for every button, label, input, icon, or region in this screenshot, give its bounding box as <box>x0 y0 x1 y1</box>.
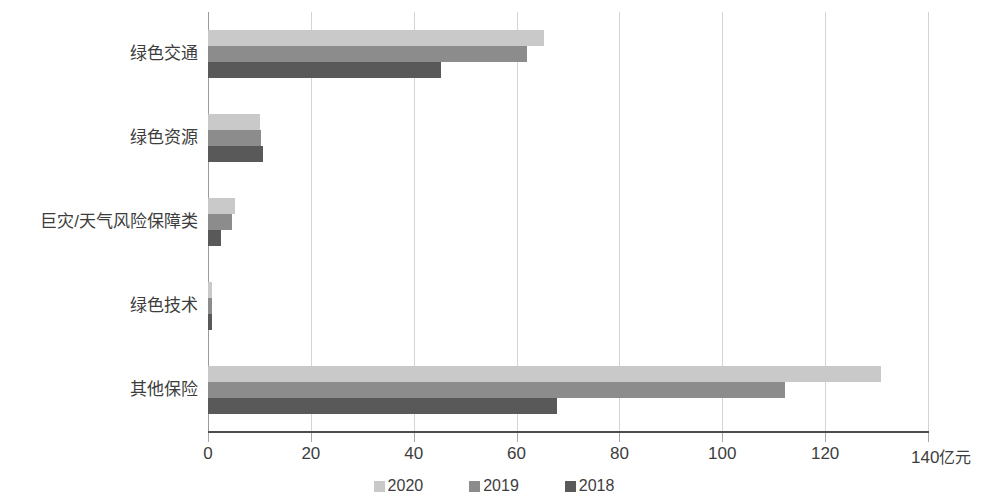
bar-2019 <box>208 382 785 398</box>
bar-2020 <box>208 282 212 298</box>
x-axis-tickmark <box>208 433 209 442</box>
x-tick-label: 20 <box>301 444 320 464</box>
x-axis-tickmark <box>311 433 312 442</box>
bar-2018 <box>208 62 441 78</box>
x-axis-tickmark <box>414 433 415 442</box>
bar-2019 <box>208 298 212 314</box>
x-axis-tickmark <box>619 433 620 442</box>
category-axis-labels: 绿色交通绿色资源巨灾/天气风险保障类绿色技术其他保险 <box>0 12 198 432</box>
gridline <box>928 12 929 432</box>
square-swatch-2020 <box>374 481 385 492</box>
bar-2018 <box>208 146 263 162</box>
category-label: 其他保险 <box>2 381 198 398</box>
x-tick-label: 140亿元 <box>911 444 971 468</box>
category-label: 巨灾/天气风险保障类 <box>2 213 198 230</box>
x-tick-label: 60 <box>507 444 526 464</box>
bar-2018 <box>208 398 557 414</box>
square-swatch-2018 <box>565 481 576 492</box>
x-axis-tickmark <box>722 433 723 442</box>
chart-legend: 202020192018 <box>0 474 986 498</box>
bar-group <box>208 30 928 78</box>
legend-item-2020[interactable]: 2020 <box>374 477 424 495</box>
x-axis-tickmark <box>517 433 518 442</box>
bar-2018 <box>208 230 221 246</box>
category-label: 绿色交通 <box>2 45 198 62</box>
bar-2019 <box>208 46 527 62</box>
square-swatch-2019 <box>469 481 480 492</box>
bar-group <box>208 282 928 330</box>
category-label: 绿色技术 <box>2 297 198 314</box>
x-tick-label: 0 <box>203 444 212 464</box>
x-axis-tick-labels: 020406080100120140亿元 <box>0 444 986 470</box>
bar-2020 <box>208 30 544 46</box>
x-axis-tickmark <box>928 433 929 442</box>
bar-group <box>208 198 928 246</box>
legend-item-2019[interactable]: 2019 <box>469 477 519 495</box>
bar-chart: 绿色交通绿色资源巨灾/天气风险保障类绿色技术其他保险 0204060801001… <box>0 0 986 500</box>
bar-2020 <box>208 114 260 130</box>
bar-2019 <box>208 130 261 146</box>
legend-item-2018[interactable]: 2018 <box>565 477 615 495</box>
plot-area <box>208 12 928 432</box>
bar-2020 <box>208 366 881 382</box>
bar-2019 <box>208 214 232 230</box>
x-tick-label: 100 <box>708 444 736 464</box>
bar-group <box>208 366 928 414</box>
x-axis-line <box>208 431 929 433</box>
bar-2018 <box>208 314 212 330</box>
bar-2020 <box>208 198 235 214</box>
legend-label: 2018 <box>579 477 615 495</box>
x-tick-label: 120 <box>811 444 839 464</box>
x-tick-label: 80 <box>610 444 629 464</box>
legend-label: 2020 <box>388 477 424 495</box>
x-axis-unit-label: 亿元 <box>939 449 971 466</box>
legend-label: 2019 <box>483 477 519 495</box>
x-tick-label: 40 <box>404 444 423 464</box>
category-label: 绿色资源 <box>2 129 198 146</box>
x-axis-tickmark <box>825 433 826 442</box>
bar-group <box>208 114 928 162</box>
x-tick-label-value: 140 <box>911 448 939 467</box>
